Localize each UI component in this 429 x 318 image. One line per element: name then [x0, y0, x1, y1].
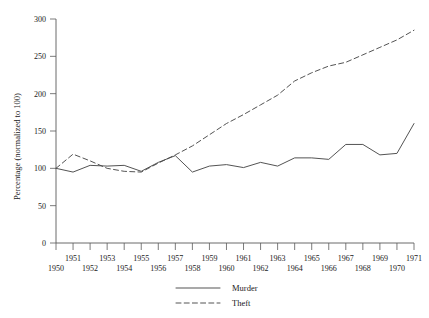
x-tick-label: 1957 [167, 254, 183, 263]
x-tick-label: 1954 [116, 264, 132, 273]
x-tick-label: 1963 [270, 254, 286, 263]
y-tick-label: 150 [34, 127, 46, 136]
line-chart-figure: Percentage (normalized to 100) 050100150… [0, 0, 429, 318]
chart-legend: MurderTheft [176, 283, 258, 308]
y-axis-ticks: 050100150200250300 [34, 15, 56, 248]
x-tick-label: 1958 [184, 264, 200, 273]
x-tick-label: 1959 [201, 254, 217, 263]
x-tick-label: 1966 [321, 264, 337, 273]
y-tick-label: 100 [34, 164, 46, 173]
series-line-theft [56, 30, 414, 172]
x-tick-label: 1969 [372, 254, 388, 263]
y-tick-label: 50 [38, 202, 46, 211]
x-tick-label: 1950 [48, 264, 64, 273]
legend-label-murder: Murder [232, 283, 258, 293]
x-tick-label: 1968 [355, 264, 371, 273]
plot-series-group [56, 30, 414, 172]
y-tick-label: 300 [34, 15, 46, 24]
series-line-murder [56, 124, 414, 173]
x-tick-label: 1971 [406, 254, 422, 263]
x-tick-label: 1962 [253, 264, 269, 273]
x-tick-label: 1952 [82, 264, 98, 273]
y-axis-label: Percentage (normalized to 100) [12, 93, 22, 200]
y-axis-title: Percentage (normalized to 100) [12, 93, 22, 200]
y-tick-label: 200 [34, 90, 46, 99]
x-tick-label: 1964 [287, 264, 303, 273]
y-tick-label: 250 [34, 52, 46, 61]
x-tick-label: 1960 [218, 264, 234, 273]
x-axis-ticks: 1950195119521953195419551956195719581959… [48, 243, 422, 273]
x-tick-label: 1965 [304, 254, 320, 263]
x-tick-label: 1956 [150, 264, 166, 273]
legend-label-theft: Theft [232, 298, 251, 308]
chart-axes [56, 19, 414, 243]
y-tick-label: 0 [42, 239, 46, 248]
x-tick-label: 1955 [133, 254, 149, 263]
x-tick-label: 1967 [338, 254, 354, 263]
x-tick-label: 1953 [99, 254, 115, 263]
x-tick-label: 1961 [236, 254, 252, 263]
x-tick-label: 1951 [65, 254, 81, 263]
x-tick-label: 1970 [389, 264, 405, 273]
